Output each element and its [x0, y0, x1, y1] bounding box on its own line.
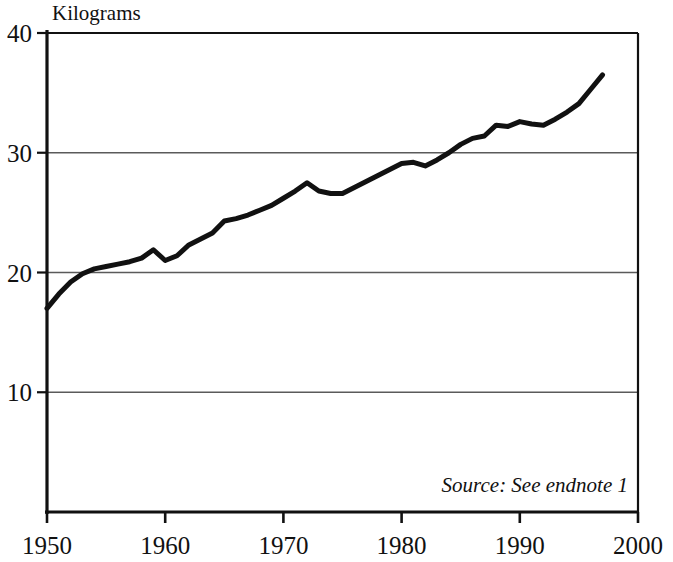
x-tick-label-1980: 1980 — [377, 532, 427, 559]
y-tick-label-40: 40 — [7, 20, 32, 47]
line-chart: 10203040 195019601970198019902000 Kilogr… — [0, 0, 673, 562]
x-tick-label-1970: 1970 — [258, 532, 308, 559]
x-tick-label-2000: 2000 — [613, 532, 663, 559]
y-tick-label-30: 30 — [7, 140, 32, 167]
x-tick-label-1990: 1990 — [495, 532, 545, 559]
y-tick-label-10: 10 — [7, 379, 32, 406]
source-note: Source: See endnote 1 — [442, 473, 628, 497]
x-tick-label-1950: 1950 — [22, 532, 72, 559]
y-tick-label-20: 20 — [7, 260, 32, 287]
x-tick-label-1960: 1960 — [140, 532, 190, 559]
chart-container: 10203040 195019601970198019902000 Kilogr… — [0, 0, 673, 562]
y-axis-title: Kilograms — [52, 1, 141, 25]
